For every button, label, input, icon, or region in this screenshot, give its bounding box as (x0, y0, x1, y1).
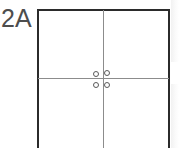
circle-top-left (93, 71, 99, 77)
figure-canvas: 2A (0, 0, 179, 148)
vertical-divider (103, 10, 104, 148)
circle-bottom-left (93, 82, 99, 88)
circle-bottom-right (104, 82, 110, 88)
circle-top-right (104, 70, 110, 76)
horizontal-divider (38, 78, 169, 79)
scan-artifact-gap (171, 62, 179, 84)
figure-label: 2A (1, 4, 32, 32)
